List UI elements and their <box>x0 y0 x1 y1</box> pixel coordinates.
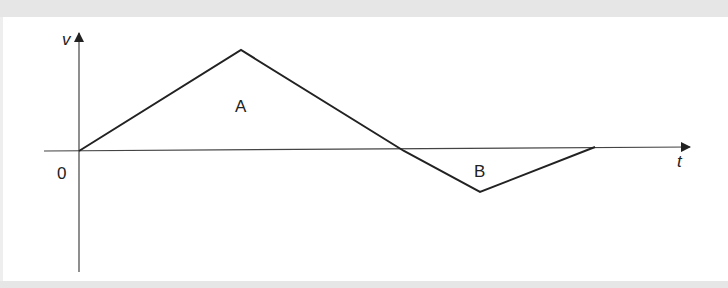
region-b-label: B <box>474 162 485 181</box>
velocity-time-graph: v t 0 A B <box>0 0 728 288</box>
velocity-line <box>79 50 595 192</box>
origin-label: 0 <box>57 164 66 183</box>
v-axis-label: v <box>62 30 72 49</box>
region-a-label: A <box>235 97 247 116</box>
diagram-frame: v t 0 A B <box>0 0 728 288</box>
t-axis-label: t <box>677 152 683 171</box>
